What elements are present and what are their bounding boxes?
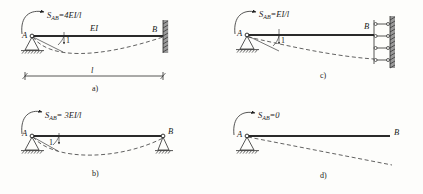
guided-link-support-c bbox=[374, 16, 395, 68]
fixed-support-a bbox=[163, 20, 168, 53]
moment-label-a: SAB=4EI/l bbox=[47, 10, 82, 21]
pin-support-b-left bbox=[21, 137, 44, 154]
deflection-curve-a bbox=[33, 37, 163, 54]
node-label-a-left: A bbox=[21, 30, 28, 40]
unit-rotation-label-b: 1 bbox=[49, 138, 53, 147]
deflection-curve-d bbox=[248, 137, 392, 165]
panel-caption-b: b) bbox=[92, 169, 99, 178]
node-label-a-right: B bbox=[152, 24, 157, 34]
panel-caption-c: c) bbox=[320, 71, 327, 80]
node-label-b-right: B bbox=[168, 126, 173, 136]
stiffness-coefficient-figure: SAB=4EI/l EI A bbox=[0, 0, 423, 194]
span-label-a: l bbox=[91, 65, 94, 75]
panel-b: SAB= 3EI/l A 1 B bbox=[21, 110, 173, 178]
panel-caption-a: a) bbox=[92, 84, 99, 93]
unit-rotation-label-a: 1 bbox=[66, 36, 70, 45]
node-label-d-left: A bbox=[236, 129, 243, 139]
moment-label-b: SAB= 3EI/l bbox=[45, 110, 82, 121]
moment-label-d: SAB=0 bbox=[258, 110, 280, 121]
panel-d: SAB=0 A B d) bbox=[234, 110, 399, 180]
span-dimension-a bbox=[23, 72, 166, 80]
pin-support-b-right bbox=[155, 137, 173, 154]
panel-caption-d: d) bbox=[320, 171, 327, 180]
node-label-c-right: B bbox=[364, 21, 369, 31]
node-label-b-left: A bbox=[21, 128, 28, 138]
deflection-curve-c bbox=[248, 37, 374, 59]
unit-rotation-label-c: 1 bbox=[281, 36, 285, 45]
pin-support-d bbox=[236, 137, 259, 154]
moment-label-c: SAB=EI/l bbox=[259, 9, 290, 20]
beam-stiffness-label-a: EI bbox=[89, 23, 99, 33]
panel-c: SAB=EI/l A 1 B bbox=[235, 9, 395, 80]
unit-rotation-marker-c bbox=[248, 29, 279, 51]
panel-a: SAB=4EI/l EI A bbox=[21, 10, 168, 93]
node-label-d-right: B bbox=[394, 127, 399, 137]
node-label-c-left: A bbox=[236, 28, 243, 38]
